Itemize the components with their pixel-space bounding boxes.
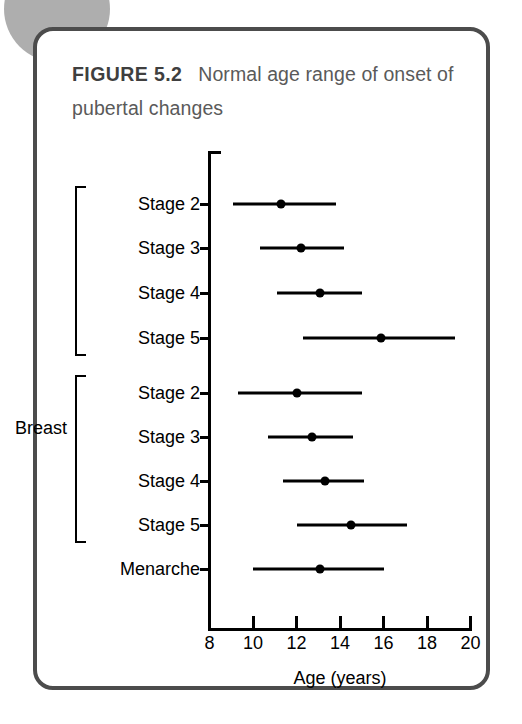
x-tick-label: 20 (451, 633, 491, 654)
chart-plot-area: 8101214161820 Stage 2Stage 3Stage 4Stage… (37, 31, 486, 686)
x-tick-label: 12 (277, 633, 317, 654)
row-label: Stage 5 (82, 515, 200, 536)
row-label: Stage 4 (82, 471, 200, 492)
x-tick (208, 616, 211, 629)
x-tick-label: 10 (233, 633, 273, 654)
x-tick (382, 616, 385, 629)
row-label: Stage 5 (82, 328, 200, 349)
x-tick-label: 14 (320, 633, 360, 654)
x-tick-label: 16 (364, 633, 404, 654)
y-tick (200, 480, 210, 483)
y-tick (200, 436, 210, 439)
y-tick (200, 524, 210, 527)
range-marker-dot (292, 389, 301, 398)
row-label: Menarche (82, 559, 200, 580)
range-marker-dot (307, 433, 316, 442)
x-tick (295, 616, 298, 629)
y-tick (200, 203, 210, 206)
range-marker-dot (377, 334, 386, 343)
row-label: Stage 2 (82, 383, 200, 404)
row-label: Stage 4 (82, 283, 200, 304)
x-tick (339, 616, 342, 629)
range-marker-dot (316, 565, 325, 574)
x-tick (252, 616, 255, 629)
y-tick (200, 247, 210, 250)
range-marker-dot (277, 200, 286, 209)
group-bracket: Breast (75, 186, 86, 356)
y-tick (200, 568, 210, 571)
group-bracket: Pubichair (75, 375, 86, 543)
x-tick (426, 616, 429, 629)
row-label: Stage 3 (82, 238, 200, 259)
range-marker-dot (320, 477, 329, 486)
range-marker-dot (346, 521, 355, 530)
figure-card: FIGURE 5.2Normal age range of onset of p… (33, 27, 490, 690)
y-axis-top-cap (208, 151, 221, 154)
y-tick (200, 292, 210, 295)
group-label: Breast (15, 417, 110, 440)
x-tick-label: 8 (190, 633, 230, 654)
row-label: Stage 2 (82, 194, 200, 215)
x-tick-label: 18 (407, 633, 447, 654)
y-tick (200, 337, 210, 340)
range-marker-dot (316, 289, 325, 298)
x-axis-title: Age (years) (208, 668, 472, 689)
x-tick (469, 616, 472, 629)
range-marker-dot (296, 244, 305, 253)
y-tick (200, 392, 210, 395)
